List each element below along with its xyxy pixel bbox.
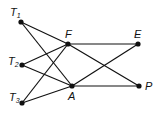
node-e [135,41,140,46]
node-p [136,83,141,88]
edges [21,22,139,103]
label-t3: T3 [9,91,20,104]
label-t1: T1 [10,6,21,19]
bipartite-graph: T1T2T3FAEP [0,0,161,115]
label-t2: T2 [8,55,19,68]
node-t1 [18,19,23,24]
node-a [69,83,74,88]
label-e: E [134,28,142,40]
label-f: F [65,28,73,40]
labels: T1T2T3FAEP [8,6,153,104]
edge-t2-f [22,44,68,65]
edge-t1-f [21,22,68,44]
edge-t2-a [22,65,72,86]
node-f [65,41,70,46]
node-t3 [19,100,24,105]
node-t2 [19,62,24,67]
nodes [18,19,141,105]
label-p: P [145,80,153,92]
edge-t3-a [22,86,72,103]
label-a: A [67,90,75,102]
